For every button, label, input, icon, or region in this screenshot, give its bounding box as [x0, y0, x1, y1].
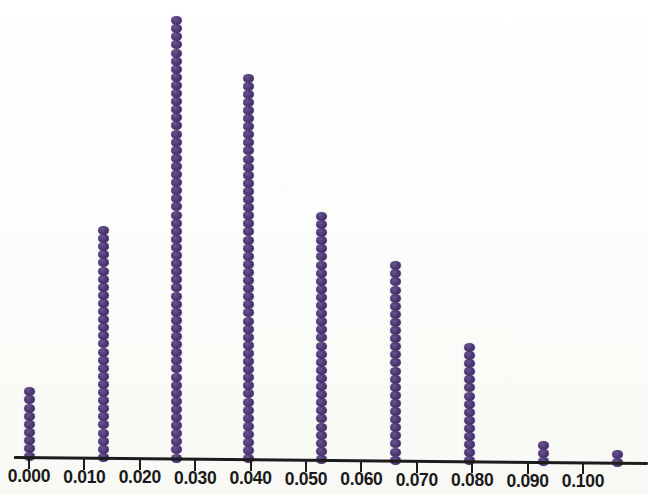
axis-tick-label: 0.040	[229, 468, 271, 489]
axis-tick-labels-layer: 0.0000.0100.0200.0300.0400.0500.0600.070…	[0, 0, 648, 495]
axis-tick-label: 0.010	[63, 467, 105, 488]
axis-tick-label: 0.020	[119, 467, 161, 488]
axis-tick-label: 0.060	[340, 469, 382, 490]
axis-tick-label: 0.000	[8, 466, 50, 487]
axis-tick-label: 0.030	[174, 468, 216, 489]
dotplot-figure: 0.0000.0100.0200.0300.0400.0500.0600.070…	[0, 0, 648, 495]
axis-tick-label: 0.100	[562, 471, 604, 492]
axis-tick-label: 0.080	[451, 470, 493, 491]
axis-tick-label: 0.050	[285, 469, 327, 490]
axis-tick-label: 0.070	[396, 470, 438, 491]
axis-tick-label: 0.090	[506, 471, 548, 492]
